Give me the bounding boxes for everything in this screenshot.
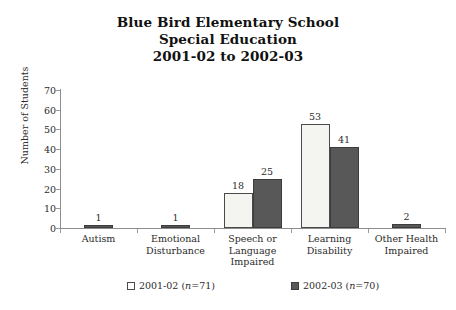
x-axis-category-label-line: Emotional bbox=[137, 233, 214, 245]
bar-value-label: 2 bbox=[403, 211, 409, 222]
bar-group-inner: 2 bbox=[368, 90, 445, 228]
chart-title: Blue Bird Elementary School Special Educ… bbox=[0, 14, 456, 65]
y-axis-tick-label: 10 bbox=[44, 203, 56, 214]
bar-group: 1825 bbox=[214, 90, 291, 228]
legend-item[interactable]: 2001-02 (n=71) bbox=[127, 280, 215, 291]
bar-slot: 1 bbox=[161, 225, 190, 228]
x-axis-tick-mark bbox=[291, 229, 292, 233]
x-axis-category-label: Autism bbox=[60, 233, 137, 245]
x-axis-category-label-line: Autism bbox=[60, 233, 137, 245]
y-axis-tick-label: 50 bbox=[44, 124, 56, 135]
x-axis-category-label-line: Learning bbox=[291, 233, 368, 245]
bar-slot: 53 bbox=[301, 124, 330, 228]
bar-value-label: 25 bbox=[261, 166, 273, 177]
bar[interactable] bbox=[330, 147, 359, 228]
x-axis-tick-mark bbox=[214, 229, 215, 233]
x-axis-category-label-line: Impaired bbox=[214, 256, 291, 268]
bar-group: 1 bbox=[137, 90, 214, 228]
y-axis-tick-label: 30 bbox=[44, 163, 56, 174]
chart-legend: 2001-02 (n=71)2002-03 (n=70) bbox=[60, 280, 446, 291]
x-axis-category-label-line: Other Health bbox=[368, 233, 445, 245]
bar[interactable] bbox=[84, 225, 113, 228]
x-axis-category-label-line: Language bbox=[214, 245, 291, 257]
bar-value-label: 53 bbox=[309, 111, 321, 122]
bar-group: 1 bbox=[60, 90, 137, 228]
x-axis-tick-mark bbox=[60, 229, 61, 233]
x-axis-category-label-line: Disturbance bbox=[137, 245, 214, 257]
x-axis-category-label: Speech orLanguageImpaired bbox=[214, 233, 291, 268]
x-axis-tick-mark bbox=[445, 229, 446, 233]
y-axis-ticks: 010203040506070 bbox=[0, 0, 56, 310]
bar-group-inner: 1 bbox=[137, 90, 214, 228]
legend-label: 2001-02 (n=71) bbox=[139, 280, 215, 291]
x-axis-category-label-line: Impaired bbox=[368, 245, 445, 257]
chart-title-line-1: Blue Bird Elementary School bbox=[0, 14, 456, 31]
bar-value-label: 41 bbox=[338, 134, 350, 145]
x-axis-category-label-line: Speech or bbox=[214, 233, 291, 245]
bar-value-label: 18 bbox=[232, 180, 244, 191]
bar-group: 2 bbox=[368, 90, 445, 228]
x-axis-category-label: Other HealthImpaired bbox=[368, 233, 445, 256]
bar-value-label: 1 bbox=[172, 212, 178, 223]
bar[interactable] bbox=[392, 224, 421, 228]
bar-slot: 1 bbox=[84, 225, 113, 228]
x-axis-tick-mark bbox=[137, 229, 138, 233]
legend-label: 2002-03 (n=70) bbox=[303, 280, 379, 291]
x-axis-category-label: LearningDisability bbox=[291, 233, 368, 256]
x-axis-line bbox=[60, 228, 446, 229]
bar-slot: 25 bbox=[253, 179, 282, 228]
y-axis-tick-label: 40 bbox=[44, 144, 56, 155]
x-axis-category-label-line: Disability bbox=[291, 245, 368, 257]
chart-title-line-3: 2001-02 to 2002-03 bbox=[0, 48, 456, 65]
bar[interactable] bbox=[161, 225, 190, 228]
y-axis-tick-label: 60 bbox=[44, 104, 56, 115]
plot-area: 11182553412 bbox=[60, 90, 445, 228]
legend-swatch-filled-square-icon bbox=[291, 282, 299, 290]
chart-title-line-2: Special Education bbox=[0, 31, 456, 48]
bar[interactable] bbox=[253, 179, 282, 228]
legend-swatch-open-square-icon bbox=[127, 282, 135, 290]
bar[interactable] bbox=[224, 193, 253, 228]
bar-value-label: 1 bbox=[95, 212, 101, 223]
bar-group: 5341 bbox=[291, 90, 368, 228]
y-axis-tick-label: 20 bbox=[44, 183, 56, 194]
bar-slot: 18 bbox=[224, 193, 253, 228]
bar-slot: 2 bbox=[392, 224, 421, 228]
legend-item[interactable]: 2002-03 (n=70) bbox=[291, 280, 379, 291]
bar-slot: 41 bbox=[330, 147, 359, 228]
x-axis-tick-mark bbox=[368, 229, 369, 233]
bar-group-inner: 5341 bbox=[291, 90, 368, 228]
bar-group-inner: 1825 bbox=[214, 90, 291, 228]
bar[interactable] bbox=[301, 124, 330, 228]
x-axis-category-label: EmotionalDisturbance bbox=[137, 233, 214, 256]
y-axis-tick-label: 70 bbox=[44, 85, 56, 96]
bar-group-inner: 1 bbox=[60, 90, 137, 228]
